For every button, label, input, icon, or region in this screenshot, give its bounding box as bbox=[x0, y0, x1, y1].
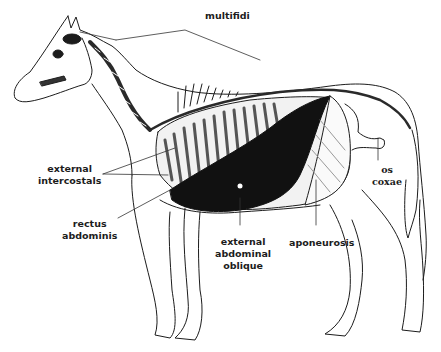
label-multifidi: multifidi bbox=[205, 10, 250, 22]
horse-face-outline bbox=[14, 16, 92, 102]
hind-leg-right bbox=[362, 190, 424, 332]
label-external-abdominal-oblique: external abdominal oblique bbox=[215, 236, 271, 272]
label-os-coxae: os coxae bbox=[372, 164, 402, 188]
hind-leg-left bbox=[325, 205, 363, 336]
label-rectus-abdominis: rectus abdominis bbox=[62, 218, 117, 242]
label-external-intercostals: external intercostals bbox=[38, 163, 101, 187]
label-aponeurosis: aponeurosis bbox=[289, 237, 354, 249]
front-leg-left bbox=[132, 175, 175, 338]
neck-vertebrae bbox=[90, 42, 150, 130]
tail bbox=[405, 130, 418, 238]
front-leg-right bbox=[175, 208, 202, 340]
horse-anatomy-diagram: multifidi external intercostals rectus a… bbox=[0, 0, 441, 352]
os-coxae-bone bbox=[345, 104, 385, 150]
